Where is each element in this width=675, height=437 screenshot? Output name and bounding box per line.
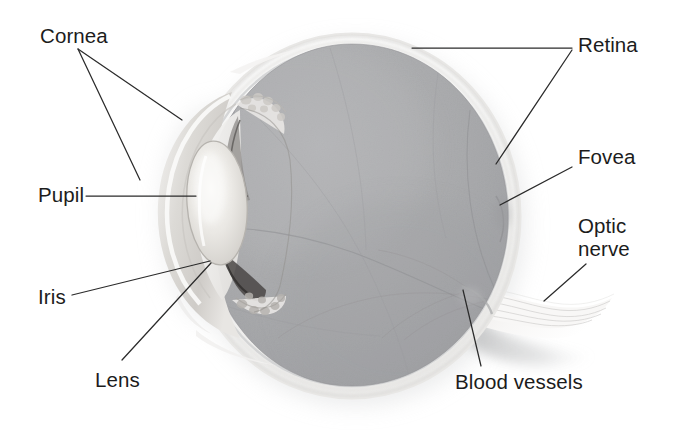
label-lens: Lens [95,368,140,391]
leader-optic-nerve [544,264,586,301]
label-pupil: Pupil [38,183,84,206]
leader-retina-b [496,50,572,164]
label-fovea: Fovea [578,145,635,168]
label-optic-nerve: Optic nerve [578,215,630,260]
leader-cornea-a [78,49,182,120]
label-iris: Iris [38,285,66,308]
label-blood-vessels: Blood vessels [455,370,583,393]
label-cornea: Cornea [40,24,108,47]
leader-cornea-b [78,49,140,180]
eye-anatomy-figure: Cornea Pupil Iris Lens Retina Fovea Opti… [0,0,675,437]
label-retina: Retina [578,33,638,56]
